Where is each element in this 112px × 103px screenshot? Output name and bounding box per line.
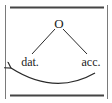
movement-arrow <box>11 68 95 83</box>
accusative-label: acc. <box>82 55 101 69</box>
dative-accusative-diagram: O dat. acc. <box>0 0 112 103</box>
dative-label: dat. <box>21 55 39 69</box>
left-branch <box>32 29 55 54</box>
root-node-label: O <box>54 16 63 31</box>
right-branch <box>63 29 87 54</box>
